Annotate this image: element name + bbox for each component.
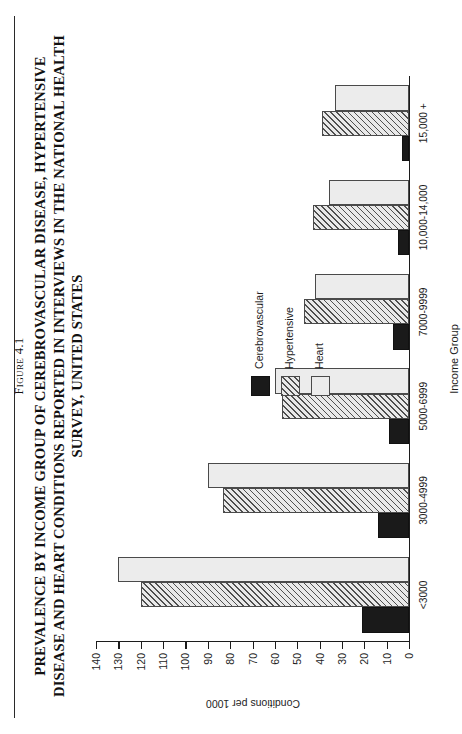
figure-number: Figure 4.1: [12, 24, 27, 708]
bar-heart-3: [315, 274, 409, 299]
bar-cerebrovascular-3: [393, 324, 409, 349]
bar-cerebrovascular-0: [362, 607, 409, 632]
x-axis-line: [409, 76, 410, 642]
y-axis-tick-label: 0: [403, 653, 415, 659]
y-axis-tick: [185, 642, 186, 649]
bar-heart-5: [335, 85, 409, 110]
y-axis-tick-label: 110: [157, 653, 169, 670]
bar-hypertensive-0: [141, 582, 409, 607]
y-axis-tick: [141, 642, 142, 649]
y-axis-tick-label: 40: [314, 653, 326, 665]
y-axis-tick: [387, 642, 388, 649]
y-axis-tick-label: 80: [224, 653, 236, 665]
y-axis-tick-label: 50: [291, 653, 303, 665]
x-axis-tick-label: 3000-4999: [418, 476, 429, 525]
y-axis-tick: [297, 642, 298, 649]
y-axis-tick: [253, 642, 254, 649]
bar-cerebrovascular-4: [398, 230, 409, 255]
bar-cerebrovascular-5: [402, 136, 409, 161]
y-axis-tick: [364, 642, 365, 649]
y-axis-tick-label: 140: [90, 653, 102, 671]
y-axis-tick: [208, 642, 209, 649]
figure-title: PREVALENCE BY INCOME GROUP OF CEREBROVAS…: [31, 24, 87, 708]
legend-swatch-hypertensive: [281, 376, 300, 396]
y-axis-tick: [230, 642, 231, 649]
x-axis-tick-label: <3000: [418, 581, 429, 610]
figure-caption: Figure 4.1 PREVALENCE BY INCOME GROUP OF…: [12, 24, 87, 708]
legend-swatch-cerebrovascular: [251, 376, 270, 396]
y-axis-tick: [342, 642, 343, 649]
y-axis-tick: [275, 642, 276, 649]
x-axis-tick-label: 10,000-14,000: [418, 185, 429, 251]
y-axis-title: Conditions per 1000: [206, 698, 300, 710]
x-axis-tick-label: 5000-6999: [418, 382, 429, 431]
x-axis-tick-label: 7000-9999: [418, 287, 429, 336]
legend-label-cerebrovascular: Cerebrovascular: [253, 291, 265, 369]
y-axis-tick: [118, 642, 119, 649]
y-axis-tick-label: 70: [247, 653, 259, 665]
x-axis-title: Income Group: [448, 324, 460, 394]
chart-plot-area: Conditions per 1000 Income Group 0102030…: [96, 76, 426, 642]
y-axis-tick-label: 120: [135, 653, 147, 671]
legend-swatch-heart: [311, 376, 330, 396]
y-axis-tick-label: 10: [381, 653, 393, 665]
bar-cerebrovascular-2: [389, 419, 409, 444]
y-axis-tick: [163, 642, 164, 649]
bar-heart-1: [208, 463, 409, 488]
y-axis-tick: [96, 642, 97, 649]
bar-heart-0: [118, 557, 409, 582]
y-axis-tick: [320, 642, 321, 649]
y-axis-tick-label: 60: [269, 653, 281, 665]
figure-page: Figure 4.1 PREVALENCE BY INCOME GROUP OF…: [0, 0, 462, 734]
y-axis-tick-label: 100: [179, 653, 191, 671]
y-axis-tick-label: 130: [112, 653, 124, 671]
legend-label-hypertensive: Hypertensive: [283, 307, 295, 369]
y-axis-tick-label: 20: [358, 653, 370, 665]
bar-hypertensive-3: [304, 299, 409, 324]
legend-label-heart: Heart: [313, 343, 325, 369]
bar-hypertensive-4: [313, 205, 409, 230]
y-axis-tick-label: 90: [202, 653, 214, 665]
rotated-figure-layer: Figure 4.1 PREVALENCE BY INCOME GROUP OF…: [0, 0, 462, 734]
bar-hypertensive-2: [282, 394, 409, 419]
bar-hypertensive-1: [223, 488, 409, 513]
x-axis-tick-label: 15,000 +: [418, 103, 429, 143]
y-axis-tick: [409, 642, 410, 649]
bar-hypertensive-5: [322, 111, 409, 136]
bar-heart-4: [329, 180, 409, 205]
bar-cerebrovascular-1: [378, 513, 409, 538]
y-axis-tick-label: 30: [336, 653, 348, 665]
